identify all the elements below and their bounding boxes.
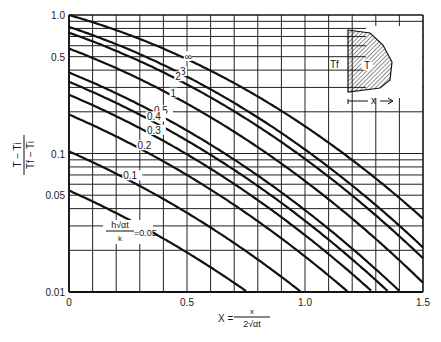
y-axis-label: T − Ti Tf − Ti	[12, 135, 36, 175]
y-tick-label: 0.5	[51, 52, 65, 63]
fluid-label: Tf	[330, 59, 339, 70]
x-axis-label: X = x 2√αt	[218, 307, 270, 329]
x-label-denominator: 2√αt	[243, 319, 261, 329]
parameter-label: h√αt k =0.05	[103, 220, 157, 244]
x-tick-label: 0.5	[180, 297, 194, 308]
y-label-numerator: T − Ti	[12, 142, 23, 167]
x-tick-label: 1.5	[416, 297, 430, 308]
x-label-numerator: x	[250, 307, 254, 316]
param-numerator: h√αt	[111, 220, 129, 230]
x-tick-label: 1.0	[298, 297, 312, 308]
inset-diagram: T Tf x	[330, 26, 422, 106]
x-tick-label: 0	[66, 297, 72, 308]
y-tick-label: 0.1	[51, 149, 65, 160]
curve-label-0.2: 0.2	[137, 140, 151, 151]
chart: ∞3210.50.40.30.20.1 00.51.01.51.00.50.10…	[0, 0, 441, 342]
y-tick-label: 0.01	[46, 287, 66, 298]
solid-label: T	[364, 60, 370, 71]
inset-x-label: x	[371, 95, 376, 106]
curve-label-0.3: 0.3	[147, 125, 161, 136]
curve-label-1: 1	[170, 88, 176, 99]
param-value: =0.05	[134, 228, 157, 238]
y-tick-label: 0.05	[46, 190, 66, 201]
curve-label-∞: ∞	[185, 51, 192, 62]
curve-label-2: 2	[175, 71, 181, 82]
x-label-prefix: X =	[218, 313, 233, 324]
y-label-denominator: Tf − Ti	[25, 141, 36, 169]
y-tick-label: 1.0	[51, 10, 65, 21]
curve-0.05	[69, 191, 246, 291]
curve-label-0.1: 0.1	[123, 170, 137, 181]
curve-labels: ∞3210.50.40.30.20.1	[122, 51, 192, 181]
curve-label-0.4: 0.4	[147, 111, 161, 122]
